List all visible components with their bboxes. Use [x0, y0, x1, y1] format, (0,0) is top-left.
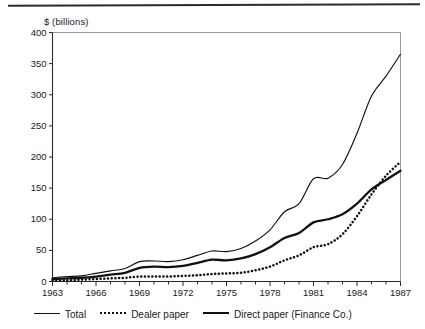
series-group [53, 54, 401, 280]
y-tick-label: 300 [13, 90, 47, 100]
y-tick-label: 50 [13, 245, 47, 255]
x-tick-label: 1969 [120, 288, 160, 298]
y-tick-label: 100 [13, 214, 47, 224]
plot-axis-spines [53, 33, 401, 282]
y-tick-label: 200 [13, 152, 47, 162]
series-line-0 [53, 54, 401, 277]
chart-plot-svg [0, 0, 425, 329]
legend-label: Direct paper (Finance Co.) [234, 309, 352, 320]
y-tick-label: 150 [13, 183, 47, 193]
y-tick-label: 0 [13, 277, 47, 287]
x-tick-label: 1966 [76, 288, 116, 298]
legend-swatch-dealer-paper [100, 311, 126, 317]
x-tick-label: 1987 [381, 288, 421, 298]
x-tick-label: 1984 [337, 288, 377, 298]
x-tick-label: 1975 [207, 288, 247, 298]
y-tick-label: 250 [13, 121, 47, 131]
plot-frame-top-right [53, 33, 401, 282]
series-line-1 [53, 162, 401, 280]
x-tick-label: 1972 [163, 288, 203, 298]
legend-swatch-direct-paper [203, 311, 229, 317]
x-tick-label: 1981 [294, 288, 334, 298]
chart-legend: TotalDealer paperDirect paper (Finance C… [34, 305, 414, 323]
legend-swatch-total [34, 311, 60, 317]
x-tick-label: 1978 [250, 288, 290, 298]
legend-entry: Total [34, 309, 86, 320]
legend-label: Dealer paper [131, 309, 189, 320]
axes-group [49, 33, 401, 287]
legend-entry: Direct paper (Finance Co.) [203, 309, 352, 320]
x-tick-label: 1963 [33, 288, 73, 298]
legend-label: Total [65, 309, 86, 320]
legend-entry: Dealer paper [100, 309, 189, 320]
y-tick-label: 400 [13, 28, 47, 38]
series-line-2 [53, 171, 401, 279]
y-tick-label: 350 [13, 59, 47, 69]
chart-figure: $ (billions) 050100150200250300350400 19… [0, 0, 425, 329]
